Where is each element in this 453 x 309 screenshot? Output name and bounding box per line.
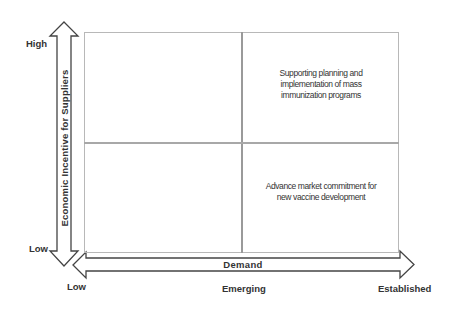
x-axis-high-label: Established xyxy=(378,283,431,294)
y-axis-high-label: High xyxy=(26,38,47,49)
y-axis-title: Economic Incentive for Suppliers xyxy=(59,70,70,227)
quadrant-top-right-text: Supporting planning and implementation o… xyxy=(262,68,380,101)
horizontal-divider xyxy=(84,142,399,144)
x-axis-mid-label: Emerging xyxy=(222,283,266,294)
x-axis-title: Demand xyxy=(223,259,262,270)
quadrant-bottom-right-text: Advance market commitment for new vaccin… xyxy=(262,181,380,203)
x-axis-low-label: Low xyxy=(67,281,86,292)
y-axis-low-label: Low xyxy=(29,243,48,254)
